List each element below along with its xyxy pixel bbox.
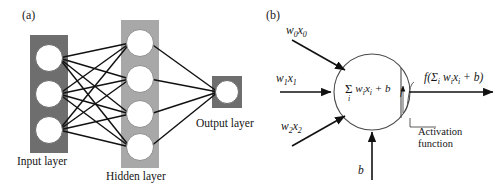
input-node: [36, 45, 63, 72]
hidden-node: [127, 66, 154, 93]
hidden-node: [127, 134, 154, 161]
label-bias: b: [358, 164, 364, 176]
label-w0x0: w0x0: [286, 24, 307, 39]
sigma-glyph: Σi: [345, 84, 353, 94]
output-expression: f(Σi wixi + b): [424, 71, 483, 86]
input-layer-caption: Input layer: [17, 155, 67, 167]
input-layer-nodes: [36, 45, 63, 144]
input-to-hidden-edges: [59, 43, 130, 147]
label-w1x1: w1x1: [276, 72, 297, 87]
output-layer-caption: Output layer: [196, 117, 254, 129]
input-arrow-w0x0: [292, 40, 345, 70]
hidden-node: [127, 30, 154, 57]
activation-caption-line-2: function: [418, 138, 462, 150]
hidden-node: [127, 101, 154, 128]
neuron-summation-expression: Σi wixi + b: [345, 82, 390, 97]
sigma-index: i: [348, 94, 350, 104]
input-node: [36, 81, 63, 108]
output-node: [216, 81, 239, 104]
activation-function-caption: Activation function: [418, 126, 462, 149]
figure-root: (a): [0, 0, 498, 191]
activation-caption-line-1: Activation: [418, 126, 462, 138]
hidden-layer-caption: Hidden layer: [106, 170, 166, 182]
activation-symbol: f: [400, 86, 403, 97]
label-w2x2: w2x2: [281, 120, 302, 135]
input-node: [36, 117, 63, 144]
hidden-to-output-edges: [150, 43, 218, 147]
summation-body: wixi + b: [355, 82, 390, 94]
